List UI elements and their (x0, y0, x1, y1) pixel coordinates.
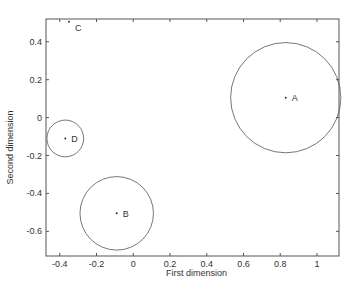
x-axis-label: First dimension (166, 268, 227, 278)
x-tick-label: -0.2 (89, 259, 105, 269)
y-tick-label: -0.2 (26, 151, 42, 161)
y-tick-label: -0.6 (26, 226, 42, 236)
y-axis-label: Second dimension (5, 110, 15, 184)
point-c-marker (68, 21, 70, 23)
point-a-marker (285, 97, 287, 99)
points-layer: ABCD (64, 21, 297, 219)
axes-frame (46, 19, 339, 256)
x-tick-label: 0.8 (274, 259, 287, 269)
point-c-label: C (75, 23, 82, 33)
y-tick-label: 0.2 (29, 75, 42, 85)
point-a-label: A (292, 93, 298, 103)
x-tick-label: -0.4 (52, 259, 68, 269)
x-tick-label: 0 (131, 259, 136, 269)
y-tick-label: -0.4 (26, 188, 42, 198)
x-axis-ticks: -0.4-0.200.20.40.60.81 (52, 19, 319, 269)
y-tick-label: 0 (37, 113, 42, 123)
point-b-marker (116, 212, 118, 214)
point-d-marker (64, 137, 66, 139)
point-d-label: D (71, 134, 78, 144)
y-tick-label: 0.4 (29, 37, 42, 47)
point-b-label: B (123, 209, 129, 219)
x-tick-label: 1 (314, 259, 319, 269)
x-tick-label: 0.6 (237, 259, 250, 269)
circles-layer (47, 43, 341, 251)
chart: ABCD -0.4-0.200.20.40.60.81 -0.6-0.4-0.2… (0, 0, 357, 289)
